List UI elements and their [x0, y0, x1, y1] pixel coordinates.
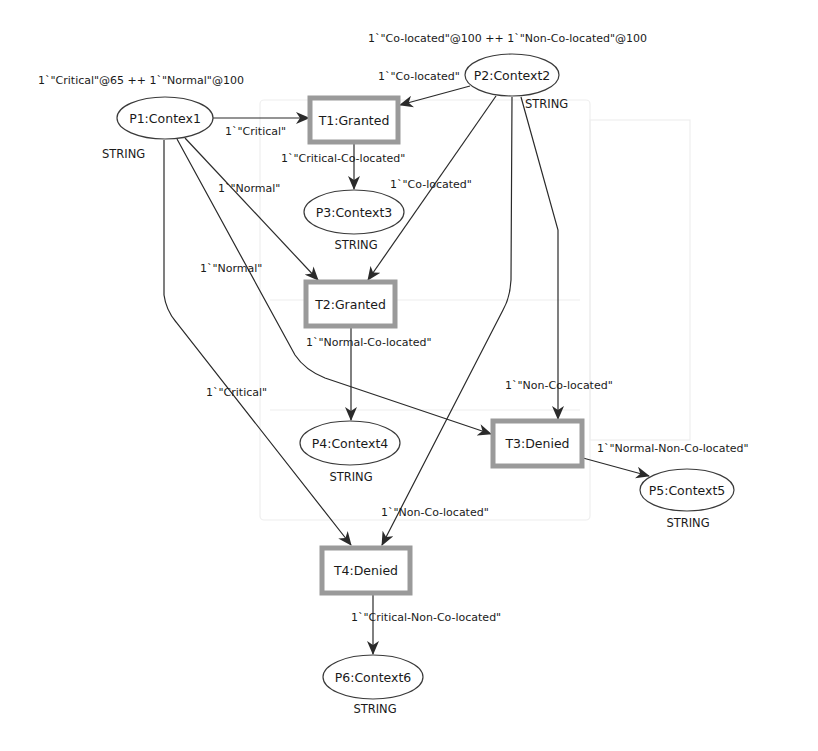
place-label: P3:Context3 [316, 205, 393, 220]
arc-label-t4-p6: 1`"Critical-Non-Co-located" [351, 611, 501, 624]
place-type-p1: STRING [102, 147, 145, 161]
place-type-p2: STRING [525, 97, 568, 111]
arc-label-p2-t1: 1`"Co-located" [378, 70, 460, 83]
place-label: P2:Context2 [474, 68, 551, 83]
transition-label: T2:Granted [314, 297, 386, 312]
place-label: P4:Context4 [312, 436, 389, 451]
transition-label: T3:Denied [504, 436, 569, 451]
place-p6[interactable]: P6:Context6 [323, 655, 423, 699]
initial-marking-p2: 1`"Co-located"@100 ++ 1`"Non-Co-located"… [368, 32, 647, 45]
arc-label-t1-p3: 1`"Critical-Co-located" [281, 152, 405, 165]
place-p3[interactable]: P3:Context3 [304, 190, 404, 234]
arc-label-p1-t1: 1`"Critical" [225, 125, 286, 138]
arc-label-p2-t2: 1`"Co-located" [390, 178, 472, 191]
transition-label: T1:Granted [318, 113, 390, 128]
arc-label-p2-t3: 1`"Non-Co-located" [505, 379, 613, 392]
arc-label-p1-t3: 1`"Normal" [200, 262, 262, 275]
place-label: P5:Context5 [649, 483, 726, 498]
place-p4[interactable]: P4:Context4 [300, 421, 400, 465]
transition-t1[interactable]: T1:Granted [310, 98, 398, 142]
place-label: P1:Contex1 [129, 111, 201, 126]
transition-t4[interactable]: T4:Denied [322, 548, 410, 593]
arc-p2-t1[interactable] [400, 86, 470, 105]
transition-label: T4:Denied [333, 563, 398, 578]
place-type-p6: STRING [353, 702, 396, 716]
transition-t2[interactable]: T2:Granted [306, 282, 395, 326]
arc-p2-t3[interactable] [521, 97, 558, 419]
place-p5[interactable]: P5:Context5 [640, 469, 734, 511]
petri-net-diagram: P1:Contex1 STRING 1`"Critical"@65 ++ 1`"… [0, 0, 818, 751]
place-p1[interactable]: P1:Contex1 [117, 97, 213, 139]
initial-marking-p1: 1`"Critical"@65 ++ 1`"Normal"@100 [38, 74, 244, 87]
arc-label-t3-p5: 1`"Normal-Non-Co-located" [597, 442, 749, 455]
place-type-p4: STRING [329, 470, 372, 484]
place-label: P6:Context6 [335, 670, 412, 685]
arc-label-p1-t2: 1`"Normal" [218, 182, 280, 195]
arc-t3-p5[interactable] [583, 458, 649, 476]
arc-label-p2-t4: 1`"Non-Co-located" [381, 506, 489, 519]
arc-label-p1-t4: 1`"Critical" [206, 386, 267, 399]
place-type-p3: STRING [334, 238, 377, 252]
arc-label-t2-p4: 1`"Normal-Co-located" [306, 336, 432, 349]
transition-t3[interactable]: T3:Denied [493, 421, 582, 466]
place-type-p5: STRING [666, 516, 709, 530]
place-p2[interactable]: P2:Context2 [465, 54, 559, 96]
